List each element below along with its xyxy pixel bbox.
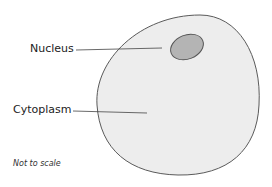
nucleus-label: Nucleus bbox=[30, 42, 74, 55]
scale-note: Not to scale bbox=[13, 159, 61, 168]
cytoplasm-label: Cytoplasm bbox=[13, 103, 71, 116]
